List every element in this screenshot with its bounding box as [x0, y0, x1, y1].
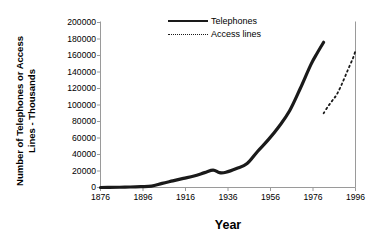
series-line-telephones — [101, 42, 324, 187]
series-line-access-lines — [324, 51, 356, 114]
chart-figure: Number of Telephones or Access Lines - T… — [0, 0, 381, 247]
plot-area — [0, 0, 381, 247]
